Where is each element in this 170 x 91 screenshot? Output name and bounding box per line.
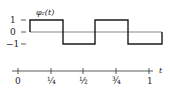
chart-title: φ₂(t) [36,8,54,17]
t-label-three-quarter: ¾ [112,76,121,86]
t-axis-label: t [159,66,163,75]
t-label-half: ½ [79,76,88,86]
y-tick-1: 1 [10,15,16,25]
y-tick-minus1: −1 [6,39,19,49]
t-label-1: 1 [147,76,153,86]
t-label-0: 0 [15,76,21,86]
t-label-quarter: ¼ [47,76,56,86]
y-tick-0: 0 [10,27,16,37]
waveform-chart: φ₂(t) 1 0 −1 0 ¼ ½ ¾ 1 t [0,0,170,91]
